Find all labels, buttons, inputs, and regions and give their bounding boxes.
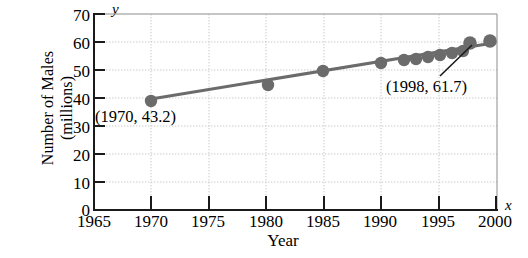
annotation-leader-line-1998 xyxy=(440,45,472,76)
x-tick-label-1980: 1980 xyxy=(236,213,296,231)
data-point-1970 xyxy=(145,95,157,107)
chart-figure: Number of Males (millions) y x 70 60 50 … xyxy=(0,0,528,258)
y-tick-label-50: 50 xyxy=(56,63,90,80)
x-tick-label-1990: 1990 xyxy=(350,213,410,231)
data-point-1980 xyxy=(262,79,274,91)
data-point-1998 xyxy=(463,36,477,50)
data-point-1993 xyxy=(410,53,422,65)
data-point-1997 xyxy=(457,45,469,57)
data-point-1995 xyxy=(434,49,446,61)
y-axis-variable-label: y xyxy=(112,2,119,17)
x-tick-label-1965: 1965 xyxy=(64,213,124,231)
vertical-gridlines xyxy=(151,14,439,210)
x-axis-title-text: Year xyxy=(267,231,298,250)
x-tick-label-1985: 1985 xyxy=(293,213,353,231)
data-point-1992 xyxy=(398,54,410,66)
data-point-1999 xyxy=(483,34,497,48)
data-point-markers xyxy=(145,34,497,107)
data-point-1990 xyxy=(375,57,387,69)
data-point-1996 xyxy=(446,47,458,59)
data-point-1994 xyxy=(422,51,434,63)
y-tick-label-10: 10 xyxy=(56,175,90,192)
y-tick-label-20: 20 xyxy=(56,147,90,164)
x-tick-label-1975: 1975 xyxy=(178,213,238,231)
y-tick-label-40: 40 xyxy=(56,91,90,108)
x-tick-label-1970: 1970 xyxy=(121,213,181,231)
x-axis-variable-label: x xyxy=(505,198,512,213)
y-tick-label-30: 30 xyxy=(56,119,90,136)
x-axis-ticks xyxy=(151,196,496,210)
y-tick-label-60: 60 xyxy=(56,35,90,52)
data-point-1985 xyxy=(317,65,329,77)
x-tick-label-1995: 1995 xyxy=(408,213,468,231)
annotation-1970: (1970, 43.2) xyxy=(95,108,176,125)
x-axis-title: Year xyxy=(0,232,528,250)
x-tick-label-2000: 2000 xyxy=(465,213,525,231)
annotation-1998: (1998, 61.7) xyxy=(386,78,467,95)
y-tick-label-70: 70 xyxy=(56,7,90,24)
